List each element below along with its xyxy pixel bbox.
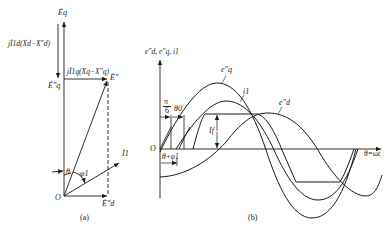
label-origin-b: O: [150, 145, 156, 153]
transient-curve-2: [179, 127, 190, 149]
label-e-pp: Ė″: [110, 74, 118, 82]
label-pi: π: [164, 98, 168, 106]
label-i1: İ1: [122, 150, 129, 158]
label-theta-phi: θ+φ1: [162, 153, 179, 161]
label-jI1q: jİ1q(Xq−X″q): [67, 68, 109, 76]
waveform-plot: [160, 60, 382, 218]
caption-a: (a): [80, 214, 89, 222]
label-origin-a: O: [55, 194, 61, 202]
eq-pp-leader: [222, 76, 226, 83]
theta-pointer: [52, 171, 63, 172]
e-pp-phasor: [64, 81, 107, 196]
ed-pp-curve: [160, 113, 382, 196]
label-eq-pp-curve: e″q: [221, 66, 232, 74]
ed-pp-leader: [278, 107, 282, 114]
label-phi1: φ1: [80, 170, 88, 178]
label-eq-pp: Ė″q: [48, 82, 60, 90]
label-y-axis: e″d, e″q, i1: [145, 48, 179, 56]
caption-b: (b): [248, 214, 257, 222]
label-jI1d: jİ1d(Xd−X″d): [8, 40, 50, 48]
label-if: If: [209, 127, 214, 135]
label-x-axis: θ=ωt: [364, 150, 380, 158]
label-ed-pp-curve: e″d: [279, 99, 290, 107]
label-theta: θ: [66, 168, 70, 176]
label-eq: Ėq: [58, 9, 67, 17]
i1-phasor: [64, 163, 119, 196]
transient-curve-1: [160, 127, 171, 149]
label-theta0: θ0: [174, 105, 182, 113]
label-i1-curve: i1: [243, 88, 249, 96]
label-ed-pp: Ė″d: [102, 200, 114, 208]
label-6: 6: [165, 107, 169, 115]
